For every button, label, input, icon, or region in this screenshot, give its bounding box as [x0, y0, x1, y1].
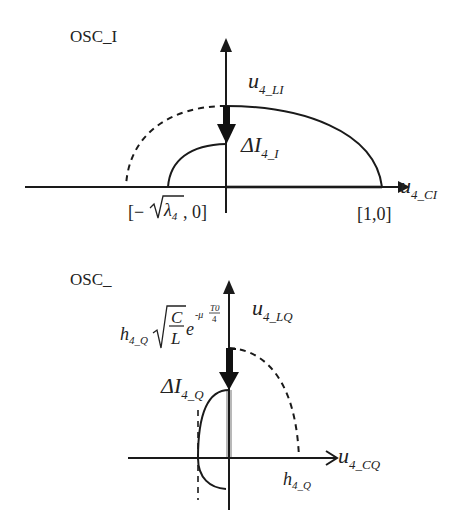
bottom-vertical-axis-label: u4_LQ — [252, 295, 293, 324]
svg-text:T0: T0 — [210, 303, 220, 313]
bottom-vertical-arrow-icon — [223, 280, 235, 294]
top-panel: OSC_I u4_LI ΔI4_I u4_CI [− λ4 , 0] [1,0] — [25, 27, 438, 224]
svg-text:, 0]: , 0] — [183, 202, 207, 222]
svg-text:L: L — [170, 329, 180, 348]
top-horizontal-axis-label: u4_CI — [400, 173, 438, 202]
svg-text:-μ: -μ — [195, 309, 203, 320]
svg-text:C: C — [171, 308, 183, 327]
top-panel-title: OSC_I — [70, 27, 118, 46]
svg-text:e: e — [186, 319, 194, 339]
diagram-canvas: OSC_I u4_LI ΔI4_I u4_CI [− λ4 , 0] [1,0] — [0, 0, 467, 520]
top-right-point-label: [1,0] — [357, 204, 392, 224]
top-delta-arrow-icon — [217, 124, 236, 144]
bottom-delta-label: ΔI4_Q — [160, 373, 204, 402]
svg-text:h4_Q: h4_Q — [120, 324, 148, 346]
svg-text:[−: [− — [128, 202, 144, 222]
svg-text:λ4: λ4 — [163, 200, 178, 222]
bottom-panel-title: OSC_ — [70, 270, 112, 289]
bottom-amplitude-formula: h4_Q C L e -μ T0 4 — [120, 303, 220, 348]
bottom-foot-label: h4_Q — [283, 469, 311, 491]
top-delta-label: ΔI4_I — [240, 132, 279, 161]
svg-text:4: 4 — [212, 314, 217, 324]
top-left-point-label: [− λ4 , 0] — [128, 196, 207, 222]
bottom-delta-shaft — [226, 348, 233, 372]
bottom-delta-arrow-icon — [219, 372, 239, 390]
bottom-solid-arc — [198, 390, 229, 489]
top-vertical-arrow-icon — [220, 38, 232, 52]
top-delta-shaft — [223, 106, 230, 126]
top-dashed-arc — [126, 106, 226, 187]
top-vertical-axis-label: u4_LI — [248, 68, 284, 97]
bottom-panel: OSC_ u4_LQ ΔI4_Q u4_CQ h4_Q h4_Q C — [70, 270, 381, 510]
bottom-horizontal-axis-label: u4_CQ — [338, 443, 381, 472]
top-inner-arc — [168, 144, 226, 187]
bottom-dashed-arc — [229, 348, 299, 458]
